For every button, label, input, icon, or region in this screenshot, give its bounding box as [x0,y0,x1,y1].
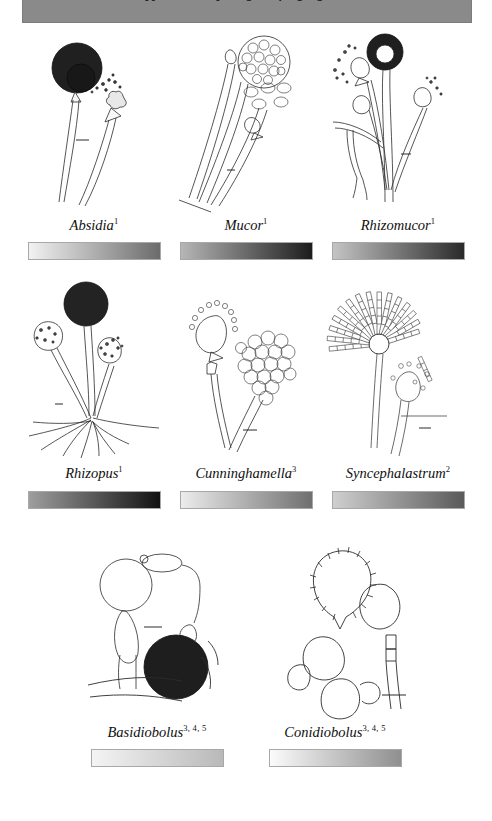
gradient-bar-cunninghamella [180,491,313,509]
specimen-label-mucor: Mucor1 [224,217,267,232]
specimen-label-rhizopus: Rhizopus1 [65,465,123,480]
specimen-name: Cunninghamella [195,465,292,481]
specimen-cell-conidiobolus: Conidiobolus3, 4, 5 [246,537,424,767]
specimen-refs: 1 [118,464,123,474]
gradient-fill [92,750,223,766]
fungus-rhizopus-illustration [19,278,169,463]
specimen-label-syncephalastrum: Syncephalastrum2 [346,465,450,480]
specimen-label-conidiobolus: Conidiobolus3, 4, 5 [284,724,386,739]
specimen-name: Mucor [224,217,263,233]
gradient-fill [29,243,160,259]
gradient-bar-basidiobolus [91,749,224,767]
fungus-rhizomucor-illustration [323,30,473,215]
gradient-fill [333,243,464,259]
header-band: opportunistic, pathogenic fungal genera [22,0,472,23]
fungus-cunninghamella-illustration [171,278,321,463]
specimen-label-absidia: Absidia1 [70,217,119,232]
gradient-bar-conidiobolus [269,749,402,767]
gradient-fill [181,492,312,508]
specimen-refs: 3, 4, 5 [183,723,206,733]
gradient-fill [181,243,312,259]
specimen-refs: 3 [292,464,297,474]
specimen-refs: 2 [446,464,451,474]
specimen-cell-basidiobolus: Basidiobolus3, 4, 5 [68,537,246,767]
gradient-bar-rhizomucor [332,242,465,260]
specimen-label-cunninghamella: Cunninghamella3 [195,465,296,480]
fungus-absidia-illustration [19,30,169,215]
fungus-conidiobolus-illustration [260,537,410,722]
specimen-name: Rhizopus [65,465,118,481]
specimen-cell-absidia: Absidia1 [18,30,170,260]
specimen-name: Absidia [70,217,114,233]
specimen-cell-rhizomucor: Rhizomucor1 [322,30,474,260]
specimen-cell-cunninghamella: Cunninghamella3 [170,278,322,508]
specimen-grid: Absidia1 [0,30,492,767]
gradient-bar-syncephalastrum [332,491,465,509]
gradient-fill [29,492,160,508]
specimen-cell-mucor: Mucor1 [170,30,322,260]
specimen-cell-rhizopus: Rhizopus1 [18,278,170,508]
gradient-bar-mucor [180,242,313,260]
gradient-bar-absidia [28,242,161,260]
specimen-refs: 1 [114,216,119,226]
specimen-label-rhizomucor: Rhizomucor1 [361,217,436,232]
specimen-refs: 1 [431,216,436,226]
specimen-cell-syncephalastrum: Syncephalastrum2 [322,278,474,508]
fungus-mucor-illustration [171,30,321,215]
specimen-refs: 3, 4, 5 [362,723,385,733]
specimen-name: Conidiobolus [284,723,362,739]
specimen-label-basidiobolus: Basidiobolus3, 4, 5 [107,724,206,739]
page-title: opportunistic, pathogenic fungal genera [23,0,471,2]
gradient-fill [333,492,464,508]
fungus-basidiobolus-illustration [82,537,232,722]
specimen-name: Basidiobolus [107,723,183,739]
fungus-syncephalastrum-illustration [323,278,473,463]
gradient-bar-rhizopus [28,491,161,509]
specimen-name: Syncephalastrum [346,465,446,481]
gradient-fill [270,750,401,766]
specimen-refs: 1 [263,216,268,226]
specimen-row: Absidia1 [0,30,492,260]
specimen-row: Basidiobolus3, 4, 5 [0,537,492,767]
specimen-name: Rhizomucor [361,217,431,233]
specimen-row: Rhizopus1 [0,278,492,508]
